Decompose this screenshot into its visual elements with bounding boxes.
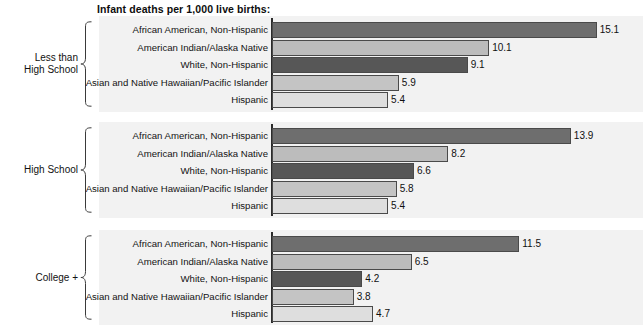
chart-row: Asian and Native Hawaiian/Pacific Island…: [0, 181, 643, 197]
category-label: American Indian/Alaska Native: [137, 254, 268, 270]
bar: [272, 306, 373, 322]
bar: [272, 289, 354, 305]
category-label: African American, Non-Hispanic: [133, 22, 268, 38]
category-label: White, Non-Hispanic: [181, 57, 268, 73]
bar: [272, 271, 362, 287]
panel-2: High SchoolAfrican American, Non-Hispani…: [0, 122, 643, 218]
bar-value-label: 9.1: [468, 57, 485, 73]
chart-row: Asian and Native Hawaiian/Pacific Island…: [0, 289, 643, 305]
bar: [272, 163, 414, 179]
bar-value-label: 8.2: [448, 146, 465, 162]
bar: [272, 40, 489, 56]
category-label: African American, Non-Hispanic: [133, 128, 268, 144]
bar-value-label: 3.8: [354, 289, 371, 305]
bar: [272, 75, 399, 91]
bar: [272, 22, 597, 38]
category-label: Asian and Native Hawaiian/Pacific Island…: [86, 181, 268, 197]
chart-row: American Indian/Alaska Native10.1: [0, 40, 643, 56]
bar-value-label: 4.7: [373, 306, 390, 322]
bar-value-label: 6.5: [412, 254, 429, 270]
infant-mortality-bar-chart: Infant deaths per 1,000 live births: Les…: [0, 0, 643, 332]
bar-value-label: 15.1: [597, 22, 619, 38]
bar-value-label: 5.4: [388, 198, 405, 214]
category-label: African American, Non-Hispanic: [133, 236, 268, 252]
plot-area: African American, Non-Hispanic11.5Americ…: [0, 230, 643, 325]
panel-1: Less thanHigh SchoolAfrican American, No…: [0, 16, 643, 112]
bar-value-label: 13.9: [571, 128, 593, 144]
category-label: Hispanic: [231, 198, 268, 214]
bar: [272, 198, 388, 214]
chart-row: Hispanic5.4: [0, 92, 643, 108]
bar: [272, 254, 412, 270]
category-label: American Indian/Alaska Native: [137, 40, 268, 56]
bar: [272, 181, 397, 197]
category-label: American Indian/Alaska Native: [137, 146, 268, 162]
chart-row: Asian and Native Hawaiian/Pacific Island…: [0, 75, 643, 91]
category-label: Asian and Native Hawaiian/Pacific Island…: [86, 75, 268, 91]
bar-value-label: 5.9: [399, 75, 416, 91]
bar-value-label: 4.2: [362, 271, 379, 287]
category-label: White, Non-Hispanic: [181, 271, 268, 287]
chart-title: Infant deaths per 1,000 live births:: [97, 3, 270, 15]
bar-value-label: 5.8: [397, 181, 414, 197]
plot-area: African American, Non-Hispanic15.1Americ…: [0, 16, 643, 112]
chart-row: White, Non-Hispanic9.1: [0, 57, 643, 73]
bar: [272, 236, 519, 252]
chart-row: African American, Non-Hispanic13.9: [0, 128, 643, 144]
bar: [272, 57, 468, 73]
bar-value-label: 6.6: [414, 163, 431, 179]
chart-row: Hispanic5.4: [0, 198, 643, 214]
bar-value-label: 5.4: [388, 92, 405, 108]
chart-row: Hispanic4.7: [0, 306, 643, 322]
category-label: Hispanic: [231, 92, 268, 108]
chart-row: African American, Non-Hispanic15.1: [0, 22, 643, 38]
bar: [272, 146, 448, 162]
category-label: White, Non-Hispanic: [181, 163, 268, 179]
bar: [272, 92, 388, 108]
bar-value-label: 11.5: [519, 236, 541, 252]
category-label: Asian and Native Hawaiian/Pacific Island…: [86, 289, 268, 305]
chart-row: American Indian/Alaska Native6.5: [0, 254, 643, 270]
plot-area: African American, Non-Hispanic13.9Americ…: [0, 122, 643, 218]
bar: [272, 128, 571, 144]
bar-value-label: 10.1: [489, 40, 511, 56]
panel-3: College +African American, Non-Hispanic1…: [0, 230, 643, 325]
chart-row: American Indian/Alaska Native8.2: [0, 146, 643, 162]
category-label: Hispanic: [231, 306, 268, 322]
chart-row: White, Non-Hispanic6.6: [0, 163, 643, 179]
chart-row: African American, Non-Hispanic11.5: [0, 236, 643, 252]
chart-row: White, Non-Hispanic4.2: [0, 271, 643, 287]
